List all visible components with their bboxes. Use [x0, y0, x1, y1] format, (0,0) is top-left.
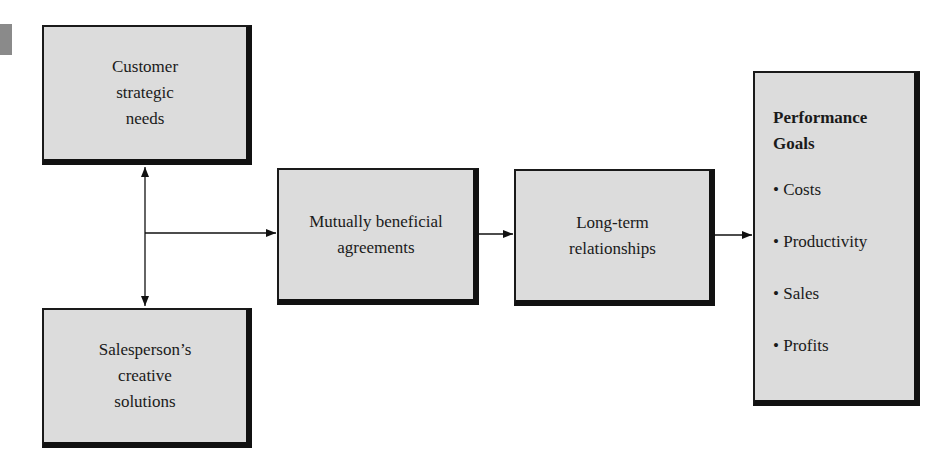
salesperson-creative-solutions-box: Salesperson’s creative solutions [42, 308, 252, 448]
box-text-line: Long-term [569, 210, 656, 236]
performance-goals-box: Performance Goals • Costs • Productivity… [753, 71, 920, 406]
box-text-line: Customer [112, 54, 178, 80]
goal-item-sales: • Sales [773, 281, 914, 307]
box-text-line: solutions [99, 389, 192, 415]
box-text-line: Salesperson’s [99, 337, 192, 363]
long-term-relationships-box: Long-term relationships [514, 169, 715, 306]
mutually-beneficial-agreements-box: Mutually beneficial agreements [277, 168, 479, 305]
goal-item-productivity: • Productivity [773, 229, 914, 255]
title-line: Goals [773, 131, 914, 157]
box-text-line: agreements [309, 235, 443, 261]
goal-item-costs: • Costs [773, 177, 914, 203]
box-text-line: needs [112, 106, 178, 132]
performance-goals-title: Performance Goals [773, 105, 914, 157]
goal-item-profits: • Profits [773, 333, 914, 359]
box-text-line: strategic [112, 80, 178, 106]
box-text-line: relationships [569, 236, 656, 262]
title-line: Performance [773, 105, 914, 131]
box-text-line: Mutually beneficial [309, 209, 443, 235]
box-text-line: creative [99, 363, 192, 389]
customer-strategic-needs-box: Customer strategic needs [42, 25, 252, 165]
